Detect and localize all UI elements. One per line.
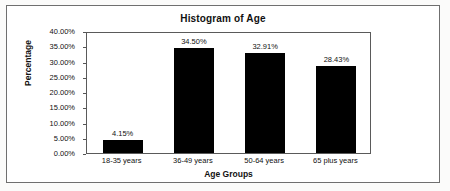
figure-frame: Histogram of Age Percentage 0.00%5.00%10… bbox=[6, 5, 440, 183]
y-axis-tick-mark bbox=[83, 63, 86, 64]
y-axis-tick-mark bbox=[83, 93, 86, 94]
bar bbox=[245, 53, 285, 153]
y-axis-tick-label: 10.00% bbox=[31, 120, 75, 128]
figure-page: Histogram of Age Percentage 0.00%5.00%10… bbox=[0, 0, 450, 191]
bar-slot: 32.91% bbox=[230, 33, 301, 153]
y-axis-tick-mark bbox=[83, 124, 86, 125]
chart-title: Histogram of Age bbox=[7, 13, 439, 24]
bar-value-label: 32.91% bbox=[252, 42, 277, 51]
bar-value-label: 4.15% bbox=[112, 129, 133, 138]
y-axis-tick-label: 0.00% bbox=[31, 150, 75, 158]
bar-value-label: 34.50% bbox=[181, 37, 206, 46]
y-axis-tick-label: 40.00% bbox=[31, 28, 75, 36]
bar bbox=[103, 140, 143, 153]
y-axis-tick-label: 35.00% bbox=[31, 43, 75, 51]
x-axis-tick-label: 65 plus years bbox=[313, 156, 358, 165]
y-axis-tick-mark bbox=[83, 78, 86, 79]
x-axis-title: Age Groups bbox=[86, 169, 371, 179]
plot-area: 4.15%34.50%32.91%28.43% bbox=[86, 32, 371, 154]
bar-slot: 34.50% bbox=[158, 33, 229, 153]
bar-value-label: 28.43% bbox=[324, 55, 349, 64]
y-axis-tick-label: 5.00% bbox=[31, 135, 75, 143]
bar bbox=[174, 48, 214, 153]
y-axis-tick-mark bbox=[83, 108, 86, 109]
bar bbox=[316, 66, 356, 153]
bar-slot: 4.15% bbox=[87, 33, 158, 153]
y-axis-tick-label: 30.00% bbox=[31, 59, 75, 67]
y-axis-tick-label: 20.00% bbox=[31, 89, 75, 97]
y-axis-tick-label: 15.00% bbox=[31, 104, 75, 112]
y-axis-tick-label: 25.00% bbox=[31, 74, 75, 82]
x-axis-tick-label: 36-49 years bbox=[173, 156, 213, 165]
y-axis-tick-mark bbox=[83, 47, 86, 48]
x-axis-tick-label: 18-35 years bbox=[102, 156, 142, 165]
bar-slot: 28.43% bbox=[301, 33, 372, 153]
y-axis-tick-mark bbox=[83, 139, 86, 140]
bars-layer: 4.15%34.50%32.91%28.43% bbox=[87, 33, 370, 153]
x-axis-tick-label: 50-64 years bbox=[244, 156, 284, 165]
x-axis-tick-labels: 18-35 years36-49 years50-64 years65 plus… bbox=[86, 156, 371, 168]
y-axis-tick-mark bbox=[83, 32, 86, 33]
y-axis-tick-mark bbox=[83, 154, 86, 155]
y-axis-tick-labels: 0.00%5.00%10.00%15.00%20.00%25.00%30.00%… bbox=[31, 30, 75, 154]
